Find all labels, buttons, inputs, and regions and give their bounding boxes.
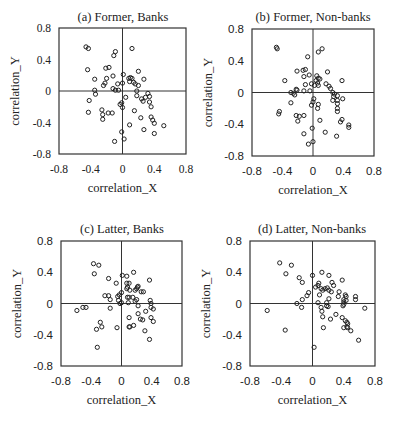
panel-a-x-tick-label: 0.8 xyxy=(179,163,194,175)
data-point-marker xyxy=(349,329,353,333)
data-point-marker xyxy=(135,94,139,98)
panel-c-y-axis-label: correlation_Y xyxy=(10,269,24,338)
data-point-marker xyxy=(302,75,306,79)
data-point-marker xyxy=(307,73,311,77)
panel-c-scatter-points xyxy=(75,262,156,350)
data-point-marker xyxy=(144,309,148,313)
data-point-marker xyxy=(318,118,322,122)
data-point-marker xyxy=(142,77,146,81)
panel-d-scatter-points xyxy=(265,261,367,350)
data-point-marker xyxy=(320,270,324,274)
data-point-marker xyxy=(116,82,120,86)
data-point-marker xyxy=(316,301,320,305)
figure-canvas: (a) Former, Banks 0.80.40-0.4-0.8 -0.8-0… xyxy=(0,0,394,423)
data-point-marker xyxy=(265,308,269,312)
data-point-marker xyxy=(91,262,95,266)
panel-c-x-tick-label: 0.8 xyxy=(174,375,190,387)
data-point-marker xyxy=(337,290,341,294)
data-point-marker xyxy=(323,130,327,134)
panel-d-y-axis-label: correlation_Y xyxy=(199,269,213,338)
data-point-marker xyxy=(130,46,134,50)
data-point-marker xyxy=(139,116,143,120)
panel-a-y-ticks: 0.80.40-0.4-0.8 xyxy=(33,22,51,160)
data-point-marker xyxy=(111,74,115,78)
data-point-marker xyxy=(93,92,97,96)
data-point-marker xyxy=(152,131,156,135)
data-point-marker xyxy=(321,315,325,319)
data-point-marker xyxy=(93,77,97,81)
data-point-marker xyxy=(94,327,98,331)
data-point-marker xyxy=(306,55,310,59)
data-point-marker xyxy=(328,317,332,321)
data-point-marker xyxy=(278,261,282,265)
panel-a-former-banks: (a) Former, Banks 0.80.40-0.4-0.8 -0.8-0… xyxy=(8,10,193,195)
data-point-marker xyxy=(300,280,304,284)
data-point-marker xyxy=(335,134,339,138)
panel-b-y-tick-label: 0.4 xyxy=(228,55,245,67)
panel-a-x-tick-label: -0.4 xyxy=(82,163,100,175)
data-point-marker xyxy=(327,273,331,277)
data-point-marker xyxy=(320,47,324,51)
data-point-marker xyxy=(128,123,132,127)
data-point-marker xyxy=(86,110,90,114)
panel-a-x-ticks: -0.8-0.400.40.8 xyxy=(50,163,194,175)
data-point-marker xyxy=(297,276,301,280)
data-point-marker xyxy=(316,50,320,54)
data-point-marker xyxy=(340,278,344,282)
panel-c-y-tick-label: 0.8 xyxy=(37,235,53,247)
data-point-marker xyxy=(316,106,320,110)
data-point-marker xyxy=(162,124,166,128)
data-point-marker xyxy=(113,139,117,143)
data-point-marker xyxy=(142,128,146,132)
data-point-marker xyxy=(289,263,293,267)
panel-c-x-tick-label: 0 xyxy=(118,375,124,387)
panel-b-x-tick-label: 0.8 xyxy=(366,165,382,177)
data-point-marker xyxy=(108,306,112,310)
data-point-marker xyxy=(336,294,340,298)
panel-c-y-tick-label: -0.8 xyxy=(33,360,53,372)
panel-d-x-tick-label: -0.4 xyxy=(271,375,291,387)
panel-b-x-tick-label: -0.8 xyxy=(242,165,262,177)
panel-b-y-tick-label: -0.4 xyxy=(224,118,244,130)
data-point-marker xyxy=(120,130,124,134)
data-point-marker xyxy=(114,281,118,285)
panel-c-x-tick-label: -0.4 xyxy=(81,375,101,387)
panel-d-y-tick-label: 0.4 xyxy=(226,266,243,278)
data-point-marker xyxy=(101,117,105,121)
panel-b-x-tick-label: -0.4 xyxy=(273,165,293,177)
panel-d-y-tick-label: 0 xyxy=(236,298,242,310)
data-point-marker xyxy=(124,95,128,99)
panel-c-y-tick-label: 0.4 xyxy=(37,266,54,278)
panel-b-title: (b) Former, Non-banks xyxy=(255,10,370,24)
data-point-marker xyxy=(97,263,101,267)
data-point-marker xyxy=(284,272,288,276)
data-point-marker xyxy=(101,113,105,117)
data-point-marker xyxy=(302,132,306,136)
data-point-marker xyxy=(306,142,310,146)
data-point-marker xyxy=(147,100,151,104)
panel-d-y-tick-label: 0.8 xyxy=(226,235,242,247)
panel-a-y-tick-label: 0 xyxy=(45,85,51,97)
panel-c-x-ticks: -0.8-0.400.40.8 xyxy=(51,375,190,387)
data-point-marker xyxy=(316,102,320,106)
data-point-marker xyxy=(132,109,136,113)
panel-a-y-tick-label: -0.4 xyxy=(33,117,51,129)
data-point-marker xyxy=(147,337,151,341)
data-point-marker xyxy=(132,270,136,274)
panel-a-x-tick-label: 0.4 xyxy=(147,163,162,175)
panel-a-y-tick-label: -0.8 xyxy=(33,148,51,160)
panel-a-x-tick-label: 0 xyxy=(120,163,126,175)
data-point-marker xyxy=(136,312,140,316)
data-point-marker xyxy=(93,88,97,92)
data-point-marker xyxy=(105,76,109,80)
panel-d-y-tick-label: -0.4 xyxy=(222,329,242,341)
panel-d-title: (d) Latter, Non-banks xyxy=(258,222,366,236)
data-point-marker xyxy=(108,298,112,302)
panel-a-title: (a) Former, Banks xyxy=(78,10,169,24)
panel-d-y-ticks: 0.80.40-0.4-0.8 xyxy=(222,235,242,372)
data-point-marker xyxy=(283,79,287,83)
panel-d-y-tick-label: -0.8 xyxy=(222,360,242,372)
data-point-marker xyxy=(120,273,124,277)
data-point-marker xyxy=(321,326,325,330)
data-point-marker xyxy=(87,98,91,102)
